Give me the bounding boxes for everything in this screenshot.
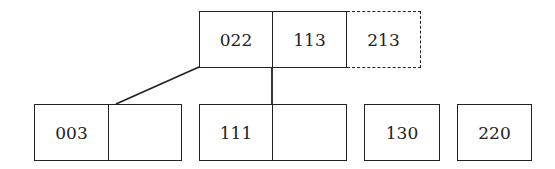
child-3-key-0: 220 [458,105,531,160]
root-key-2-dashed: 213 [347,11,421,68]
child-node-0: 003 [34,104,182,161]
child-node-2: 130 [364,104,440,161]
child-node-3: 220 [457,104,532,161]
root-node: 022 113 [199,11,347,68]
edge-root-to-child-0 [116,67,199,104]
child-0-key-1 [109,105,181,160]
tree-diagram: 022 113 213 003 111 130 220 [0,0,555,169]
root-key-0: 022 [200,12,273,67]
child-1-key-1 [273,105,346,160]
child-node-1: 111 [199,104,347,161]
child-1-key-0: 111 [200,105,273,160]
root-key-1: 113 [273,12,346,67]
child-0-key-0: 003 [35,105,109,160]
child-2-key-0: 130 [365,105,439,160]
